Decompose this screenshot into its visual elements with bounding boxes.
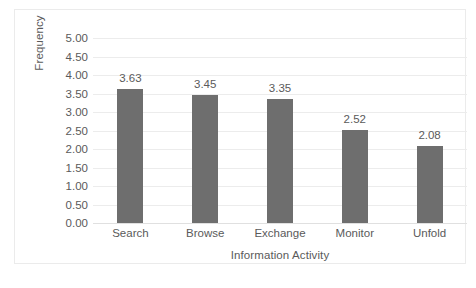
bar[interactable]: 2.08 [417,146,443,223]
bar[interactable]: 3.35 [267,99,293,223]
y-axis-tick-label: 5.00 [55,31,88,45]
x-axis-tick-labels: SearchBrowseExchangeMonitorUnfold [93,227,467,243]
bar[interactable]: 3.63 [117,89,143,223]
plot-area: 3.633.453.352.522.08 [93,38,467,223]
bar-slot: 2.52 [317,38,392,223]
y-axis-tick-label: 3.00 [55,105,88,119]
y-axis-tick-label: 3.50 [55,87,88,101]
bar-value-label: 3.63 [119,72,141,84]
x-axis-tick-label: Monitor [317,227,392,243]
y-axis-tick-label: 1.00 [55,179,88,193]
y-axis-tick-label: 2.00 [55,142,88,156]
bar-slot: 3.45 [168,38,243,223]
bars-container: 3.633.453.352.522.08 [93,38,467,223]
bar[interactable]: 2.52 [342,130,368,223]
bar-value-label: 3.35 [269,82,291,94]
x-axis-tick-label: Search [93,227,168,243]
bar-slot: 2.08 [392,38,467,223]
x-axis-tick-label: Browse [168,227,243,243]
bar-value-label: 2.08 [418,129,440,141]
y-axis-title: Frequency [33,0,51,98]
y-axis-tick-label: 0.50 [55,198,88,212]
bar-slot: 3.63 [93,38,168,223]
axis-baseline [93,223,467,224]
bar[interactable]: 3.45 [192,95,218,223]
chart-frame: 5.004.504.003.503.002.502.001.501.000.50… [14,9,466,264]
x-axis-title: Information Activity [93,249,467,261]
y-axis-tick-label: 2.50 [55,124,88,138]
x-axis-tick-label: Unfold [392,227,467,243]
y-axis-tick-label: 4.00 [55,68,88,82]
bar-value-label: 2.52 [344,113,366,125]
y-axis-tick-labels: 5.004.504.003.503.002.502.001.501.000.50… [55,31,88,231]
bar-slot: 3.35 [243,38,318,223]
bar-value-label: 3.45 [194,78,216,90]
y-axis-tick-label: 0.00 [55,216,88,230]
x-axis-tick-label: Exchange [243,227,318,243]
y-axis-tick-label: 4.50 [55,50,88,64]
y-axis-tick-label: 1.50 [55,161,88,175]
